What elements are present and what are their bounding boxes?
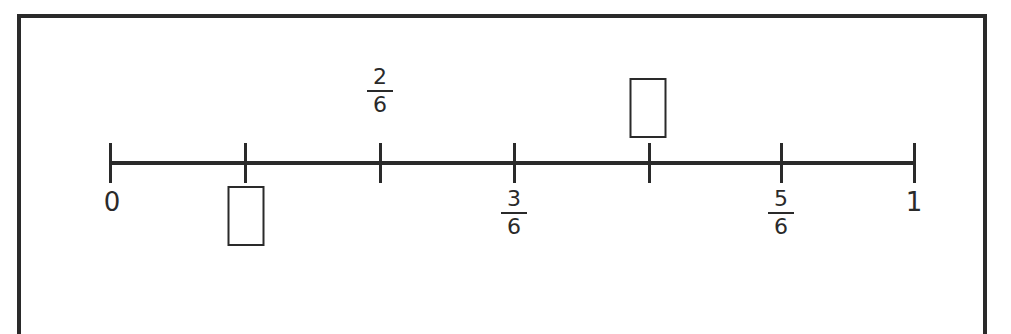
tick-5-sixths [780,143,783,183]
answer-box-1-sixth[interactable] [228,186,265,246]
label-zero: 0 [104,189,121,215]
label-5-sixths: 5 6 [768,188,794,238]
tick-0 [109,143,112,183]
label-2-sixths: 2 6 [367,66,393,116]
numerator: 5 [774,188,788,212]
denominator: 6 [774,214,788,238]
tick-3-sixths [513,143,516,183]
label-3-sixths: 3 6 [501,188,527,238]
numerator: 2 [373,66,387,90]
tick-4-sixths [648,143,651,183]
tick-1-sixth [244,143,247,183]
label-one: 1 [906,189,923,215]
tick-2-sixths [379,143,382,183]
denominator: 6 [507,214,521,238]
denominator: 6 [373,92,387,116]
answer-box-4-sixths[interactable] [630,78,667,138]
tick-1 [913,143,916,183]
numerator: 3 [507,188,521,212]
diagram-frame [17,14,987,334]
